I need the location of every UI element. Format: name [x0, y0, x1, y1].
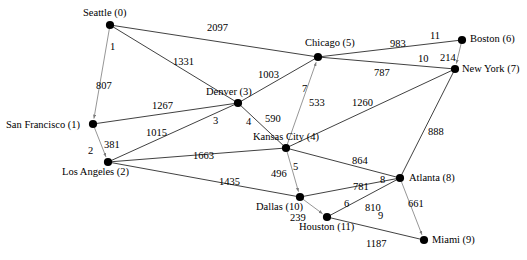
edge-weight-label: 1015 — [146, 128, 167, 139]
node-label-atlanta: Atlanta (8) — [409, 173, 455, 184]
node-label-seattle: Seattle (0) — [83, 8, 126, 19]
parent-pointer-label-seattle-to-san-francisco: 1 — [110, 42, 115, 53]
edge-weight-label: 533 — [309, 98, 325, 109]
edge-weight-label: 787 — [374, 68, 390, 79]
edge-weight-label: 864 — [352, 156, 368, 167]
graph-node-miami[interactable] — [420, 236, 428, 244]
edge-weight-label: 590 — [265, 114, 281, 125]
graph-edge-boston-to-new-york — [456, 43, 461, 63]
graph-node-denver[interactable] — [234, 99, 242, 107]
node-label-boston: Boston (6) — [470, 34, 515, 45]
edge-weight-label: 1435 — [219, 177, 240, 188]
edge-weight-label: 214 — [440, 53, 456, 64]
parent-pointer-label-kansas-city-to-dallas: 5 — [293, 162, 298, 173]
parent-pointer-label-san-francisco-to-los-angeles: 2 — [88, 146, 93, 157]
node-label-kansas-city: Kansas City (4) — [253, 132, 319, 143]
node-label-houston: Houston (11) — [299, 222, 354, 233]
graph-node-houston[interactable] — [323, 213, 331, 221]
graph-node-san-francisco[interactable] — [89, 120, 97, 128]
edge-weight-label: 888 — [428, 127, 444, 138]
graph-node-atlanta[interactable] — [396, 174, 404, 182]
edge-weight-label: 661 — [408, 199, 424, 210]
edge-weight-label: 2097 — [207, 23, 228, 34]
node-label-dallas: Dallas (10) — [256, 202, 303, 213]
graph-node-new-york[interactable] — [451, 65, 459, 73]
edge-weight-label: 781 — [353, 182, 369, 193]
graph-edge-new-york-to-atlanta — [402, 72, 454, 175]
parent-pointer-label-boston-branch: 11 — [430, 31, 440, 42]
edge-weight-label: 1003 — [258, 70, 279, 81]
parent-pointer-label-denver-to-kansas-city: 4 — [246, 117, 251, 128]
node-label-miami: Miami (9) — [432, 235, 475, 246]
edge-weight-label: 1260 — [352, 98, 373, 109]
node-label-new-york: New York (7) — [462, 64, 519, 75]
graph-node-chicago[interactable] — [314, 53, 322, 61]
edge-weight-label: 807 — [96, 81, 112, 92]
parent-pointer-label-atlanta-to-miami: 9 — [378, 211, 383, 222]
graph-edge-dallas-to-houston — [303, 199, 323, 214]
node-label-los-angeles: Los Angeles (2) — [62, 167, 129, 178]
graph-edge-kansas-city-to-atlanta — [289, 149, 396, 177]
edge-weight-label: 1663 — [193, 151, 214, 162]
graph-node-kansas-city[interactable] — [282, 144, 290, 152]
edge-weight-label: 496 — [271, 169, 287, 180]
node-label-chicago: Chicago (5) — [305, 38, 355, 49]
edge-weight-label: 1331 — [173, 57, 194, 68]
parent-pointer-label-dallas-to-houston: 6 — [344, 199, 349, 210]
graph-node-seattle[interactable] — [106, 21, 114, 29]
graph-node-boston[interactable] — [458, 36, 466, 44]
node-label-san-francisco: San Francisco (1) — [6, 120, 80, 131]
edge-weight-label: 983 — [390, 39, 406, 50]
parent-pointer-label-new-york-branch: 10 — [418, 54, 429, 65]
parent-pointer-label-denver-tree-branch: 3 — [213, 116, 218, 127]
edge-weight-label: 1187 — [366, 239, 387, 250]
edge-weight-label: 1267 — [152, 101, 173, 112]
graph-edge-los-angeles-to-dallas — [111, 163, 296, 197]
node-label-denver: Denver (3) — [206, 87, 252, 98]
graph-diagram-canvas: 2097133180712673811015166314351003590533… — [0, 0, 527, 260]
parent-pointer-label-atlanta-branch: 8 — [380, 175, 385, 186]
edge-weight-label: 381 — [104, 140, 120, 151]
parent-pointer-label-chicago-to-kansas-city: 7 — [302, 84, 307, 95]
graph-edge-seattle-to-san-francisco — [94, 28, 109, 118]
graph-node-dallas[interactable] — [296, 193, 304, 201]
graph-node-los-angeles[interactable] — [104, 158, 112, 166]
